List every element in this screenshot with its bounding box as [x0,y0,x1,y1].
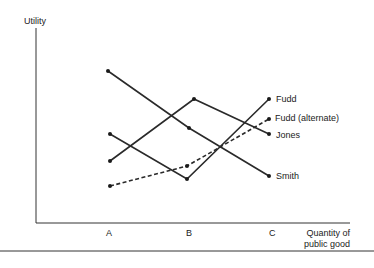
x-axis-label-line1: Quantity of [306,228,350,238]
data-point-smith [187,126,191,130]
series-label-fudd-alternate: Fudd (alternate) [275,113,339,123]
x-tick-a: A [106,228,112,238]
x-tick-c: C [269,228,276,238]
y-axis-label: Utility [24,16,46,26]
data-point-fudd-alternate [185,164,189,168]
x-axis-label-line2: public good [304,239,350,249]
data-point-smith [106,69,110,73]
series-label-fudd: Fudd [276,94,297,104]
data-point-fudd [267,97,271,101]
series-label-smith: Smith [276,171,299,181]
x-tick-b: B [186,228,192,238]
series-label-jones: Jones [276,130,300,140]
series-line-jones [110,99,269,161]
series-line-fudd [110,99,269,179]
data-point-fudd [108,132,112,136]
data-point-jones [108,159,112,163]
data-point-jones [267,132,271,136]
data-point-jones [192,97,196,101]
data-point-fudd [185,177,189,181]
data-point-smith [267,174,271,178]
data-point-fudd-alternate [267,117,271,121]
data-point-fudd-alternate [108,184,112,188]
